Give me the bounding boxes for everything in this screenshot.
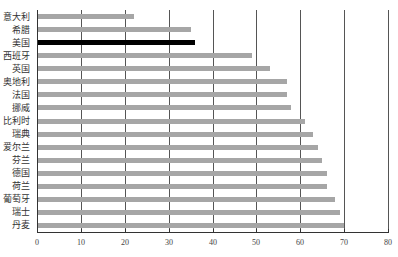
x-tick-label: 70 (340, 238, 348, 247)
bar (38, 145, 318, 150)
x-tick-label: 20 (121, 238, 129, 247)
x-tick (169, 229, 170, 233)
category-label: 葡萄牙 (3, 194, 30, 204)
bar (38, 92, 287, 97)
bar (38, 105, 291, 110)
x-tick (213, 229, 214, 233)
bar (38, 79, 287, 84)
category-label: 英国 (12, 64, 30, 74)
x-tick (300, 229, 301, 233)
category-label: 德国 (12, 168, 30, 178)
category-label: 比利时 (3, 116, 30, 126)
category-label: 希腊 (12, 25, 30, 35)
x-tick-label: 60 (296, 238, 304, 247)
category-label: 法国 (12, 90, 30, 100)
bar (38, 171, 327, 176)
gridline (344, 10, 345, 232)
bar (38, 119, 305, 124)
x-tick (256, 229, 257, 233)
category-label: 瑞典 (12, 129, 30, 139)
gridline (388, 10, 389, 232)
x-tick-label: 10 (77, 238, 85, 247)
x-tick-label: 50 (252, 238, 260, 247)
category-label: 荷兰 (12, 181, 30, 191)
bar (38, 210, 340, 215)
bar (38, 27, 191, 32)
x-tick-label: 80 (384, 238, 392, 247)
category-label: 挪威 (12, 103, 30, 113)
x-tick (81, 229, 82, 233)
bar (38, 158, 322, 163)
x-tick (344, 229, 345, 233)
category-label: 瑞士 (12, 207, 30, 217)
category-label: 丹麦 (12, 220, 30, 230)
category-label: 爱尔兰 (3, 142, 30, 152)
category-label: 意大利 (3, 12, 30, 22)
x-tick-label: 40 (209, 238, 217, 247)
x-tick-label: 30 (165, 238, 173, 247)
bar (38, 197, 335, 202)
horizontal-bar-chart: 01020304050607080意大利希腊美国西班牙英国奥地利法国挪威比利时瑞… (0, 0, 398, 257)
x-tick (388, 229, 389, 233)
bar (38, 184, 327, 189)
bar (38, 132, 313, 137)
category-label: 西班牙 (3, 51, 30, 61)
category-label: 奥地利 (3, 77, 30, 87)
bar (38, 223, 344, 228)
bar-highlighted (38, 40, 195, 45)
x-tick (37, 229, 38, 233)
x-tick-label: 0 (35, 238, 39, 247)
bar (38, 53, 252, 58)
category-label: 芬兰 (12, 155, 30, 165)
bar (38, 14, 134, 19)
bar (38, 66, 270, 71)
category-label: 美国 (12, 38, 30, 48)
x-tick (125, 229, 126, 233)
